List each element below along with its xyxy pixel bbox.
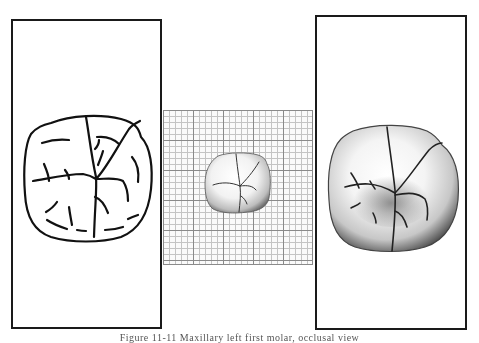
- line-drawing-panel: [11, 19, 162, 329]
- enlarged-photo-panel: [315, 15, 467, 330]
- tooth-photo-enlarged: [315, 15, 467, 330]
- figure-caption: Figure 11-11 Maxillary left first molar,…: [0, 332, 479, 343]
- tooth-photo-small: [163, 110, 313, 265]
- tooth-outline-drawing: [11, 19, 162, 329]
- grid-panel: [163, 110, 313, 265]
